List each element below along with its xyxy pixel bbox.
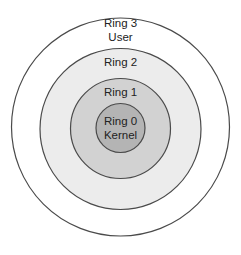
ring-0-title: Ring 0 bbox=[104, 115, 137, 127]
ring-3-subtitle: User bbox=[108, 31, 132, 43]
ring-3-title: Ring 3 bbox=[104, 17, 137, 29]
ring-0-subtitle: Kernel bbox=[104, 129, 137, 141]
ring-1-title: Ring 1 bbox=[104, 86, 137, 98]
protection-rings-diagram: Ring 3 User Ring 2 Ring 1 Ring 0 Kernel bbox=[0, 0, 241, 255]
ring-0-circle bbox=[96, 104, 145, 153]
ring-2-title: Ring 2 bbox=[104, 56, 137, 68]
